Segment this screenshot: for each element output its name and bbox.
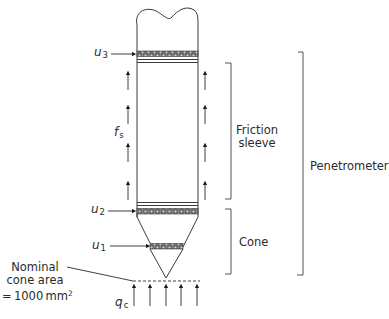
- penetrometer-body: [137, 8, 198, 278]
- u1-filter: [150, 244, 183, 250]
- sleeve-friction-arrows: [128, 73, 205, 200]
- u3-label: u3: [94, 46, 108, 62]
- cone-label: Cone: [239, 236, 268, 249]
- u2-label: u2: [91, 203, 105, 219]
- cone-resistance: [67, 267, 200, 306]
- cone-bracket: [225, 209, 231, 274]
- u3-filter: [137, 51, 198, 57]
- nominal-label-line2: cone area: [2, 274, 68, 287]
- friction-sleeve-label-line2: sleeve: [234, 137, 280, 150]
- u2-filter: [137, 209, 198, 215]
- broken-top-outline: [137, 8, 198, 25]
- u1-label: u1: [92, 239, 106, 255]
- penetrometer-label: Penetrometer: [310, 160, 389, 173]
- friction-sleeve-label: Friction sleeve: [234, 124, 280, 150]
- nominal-label-line3: = 1000 mm2: [2, 287, 68, 303]
- friction-sleeve-bracket: [225, 63, 231, 199]
- qc-label: qc: [115, 296, 128, 312]
- penetrometer-bracket: [297, 52, 303, 275]
- fs-label: fs: [114, 126, 124, 142]
- nominal-cone-area-label: Nominal cone area = 1000 mm2: [2, 261, 68, 303]
- nominal-area-leader: [67, 267, 133, 281]
